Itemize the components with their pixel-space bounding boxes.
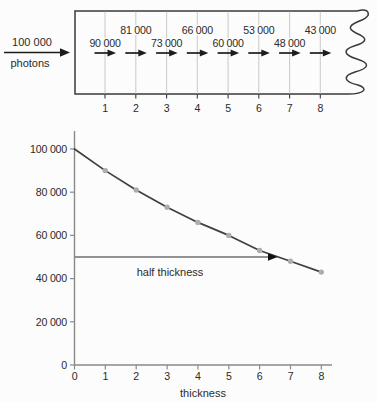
source-unit-label: photons xyxy=(10,57,50,69)
x-tick-label: 0 xyxy=(72,370,78,382)
y-tick-label: 80 000 xyxy=(36,186,68,198)
transmission-count-label: 81 000 xyxy=(120,24,152,36)
slab-tick-label: 2 xyxy=(133,102,139,114)
y-tick-label: 40 000 xyxy=(36,272,68,284)
x-axis-title: thickness xyxy=(180,387,226,399)
attenuation-chart: 020 00040 00060 00080 000100 00001234567… xyxy=(0,125,377,402)
transmission-count-label: 66 000 xyxy=(182,24,214,36)
y-tick-label: 60 000 xyxy=(36,229,68,241)
slab-tick-label: 7 xyxy=(287,102,293,114)
photon-arrow-head xyxy=(200,49,209,56)
photon-arrow-head xyxy=(108,49,117,56)
photon-arrow-head xyxy=(138,49,147,56)
transmission-count-label: 60 000 xyxy=(212,37,244,49)
source-arrow-head xyxy=(60,48,70,57)
y-tick-label: 100 000 xyxy=(30,143,67,155)
decay-curve xyxy=(75,149,322,272)
transmission-count-label: 53 000 xyxy=(243,24,275,36)
x-tick-label: 7 xyxy=(288,370,294,382)
slab-tick-label: 6 xyxy=(256,102,262,114)
x-tick-label: 4 xyxy=(195,370,201,382)
slab-tick-label: 5 xyxy=(225,102,231,114)
source-count-label: 100 000 xyxy=(12,36,52,48)
slab-torn-edge xyxy=(346,10,368,94)
slab-tick-label: 8 xyxy=(317,102,323,114)
data-point xyxy=(164,205,169,210)
photon-arrow-head xyxy=(231,49,240,56)
slab-layers: 90 000181 000273 000366 000460 000553 00… xyxy=(89,12,336,114)
y-tick-label: 20 000 xyxy=(36,316,68,328)
data-point xyxy=(226,233,231,238)
transmission-count-label: 73 000 xyxy=(151,37,183,49)
data-point xyxy=(195,220,200,225)
y-tick-label: 0 xyxy=(61,359,67,371)
x-tick-label: 8 xyxy=(318,370,324,382)
photon-arrow-head xyxy=(292,49,301,56)
attenuation-figure: 90 000181 000273 000366 000460 000553 00… xyxy=(0,0,377,402)
data-point xyxy=(257,248,262,253)
data-point xyxy=(319,269,324,274)
half-thickness-label: half thickness xyxy=(137,266,204,278)
data-point xyxy=(134,187,139,192)
x-tick-label: 5 xyxy=(226,370,232,382)
chart-plot-area: 020 00040 00060 00080 000100 00001234567… xyxy=(30,131,332,382)
slab-tick-label: 4 xyxy=(194,102,200,114)
slab-tick-label: 1 xyxy=(102,102,108,114)
data-point xyxy=(103,168,108,173)
transmission-count-label: 43 000 xyxy=(305,24,337,36)
photon-arrow-head xyxy=(261,49,270,56)
slab-tick-label: 3 xyxy=(164,102,170,114)
data-point xyxy=(288,259,293,264)
transmission-count-label: 90 000 xyxy=(89,37,121,49)
x-tick-label: 1 xyxy=(102,370,108,382)
x-tick-label: 2 xyxy=(133,370,139,382)
photon-arrow-head xyxy=(169,49,178,56)
photon-arrow-head xyxy=(323,49,332,56)
transmission-count-label: 48 000 xyxy=(274,37,306,49)
x-tick-label: 3 xyxy=(164,370,170,382)
absorber-slab-diagram: 90 000181 000273 000366 000460 000553 00… xyxy=(0,0,377,125)
x-tick-label: 6 xyxy=(257,370,263,382)
